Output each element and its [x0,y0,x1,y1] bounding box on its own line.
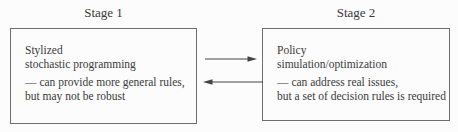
stage2-line2: simulation/optimization [277,57,445,71]
two-stage-diagram: Stage 1 Stage 2 Stylized stochastic prog… [0,0,458,132]
arrow-left-icon [203,79,263,85]
stage2-line1: Policy [277,43,445,57]
stage1-note2: but may not be robust [25,89,192,103]
stage1-line1: Stylized [25,43,192,57]
stage1-title: Stage 1 [10,5,197,21]
stage2-note1: — can address real issues, [277,75,445,89]
stage2-note2: but a set of decision rules is required [277,89,445,103]
stage2-title: Stage 2 [262,5,450,21]
stage1-line2: stochastic programming [25,57,192,71]
stage1-note1: — can provide more general rules, [25,75,192,89]
stage1-box: Stylized stochastic programming — can pr… [10,28,197,124]
between-stage-arrows [195,50,267,90]
stage2-box: Policy simulation/optimization — can add… [262,28,450,121]
arrow-right-icon [205,56,257,62]
